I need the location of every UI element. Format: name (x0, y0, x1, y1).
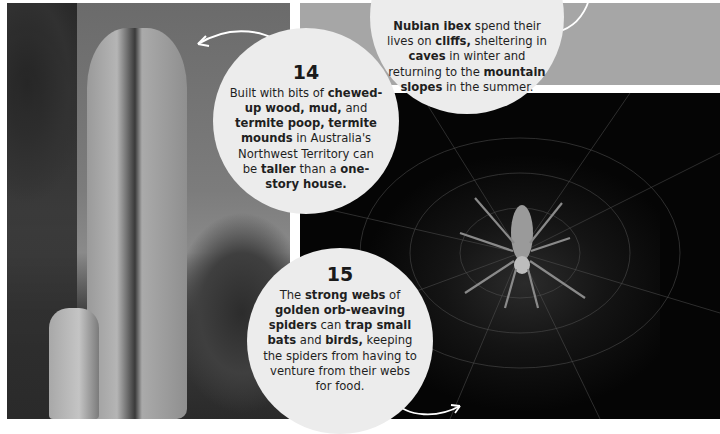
fact-text: Built with bits of chewed-up wood, mud, … (229, 86, 383, 192)
spider-icon (460, 198, 585, 308)
fact-number: 14 (293, 62, 319, 82)
fact-15-callout: 15 The strong webs of golden orb-weaving… (247, 248, 433, 434)
fact-text: The strong webs of golden orb-weaving sp… (261, 288, 419, 394)
termite-mound-small (49, 308, 99, 419)
fact-14-callout: 14 Built with bits of chewed-up wood, mu… (213, 28, 399, 214)
fact-number: 15 (327, 264, 353, 284)
termite-mound (87, 28, 187, 419)
fact-text: Nubian ibex spend their lives on cliffs,… (384, 19, 550, 95)
